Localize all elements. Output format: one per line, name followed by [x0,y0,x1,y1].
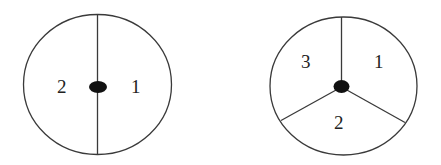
pivot-dot [89,81,107,93]
pivot-dot [334,80,350,93]
sector-label-1: 1 [131,76,141,97]
three-sector-circle: 1 2 3 [270,17,417,155]
diagram-canvas: 1 2 1 2 3 [0,0,441,165]
sector-label-1: 1 [374,51,384,72]
two-sector-circle: 1 2 [24,15,172,155]
sector-label-3: 3 [301,51,311,72]
divider-line-left [281,87,342,121]
sector-label-2: 2 [334,112,344,133]
divider-line-right [342,87,406,123]
sector-label-2: 2 [57,76,67,97]
